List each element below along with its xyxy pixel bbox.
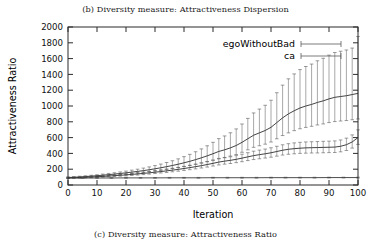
y-tick-label: 1000 — [41, 101, 63, 111]
x-tick-label: 20 — [121, 188, 132, 198]
y-axis-title: Attractiveness Ratio — [7, 58, 18, 155]
x-tick-label: 90 — [324, 188, 335, 198]
data-series-layer — [66, 36, 360, 178]
y-tick-label: 200 — [47, 164, 63, 174]
x-axis-tick-labels: 0102030405060708090100 — [65, 188, 366, 198]
legend-label-egoWithoutBad: egoWithoutBad — [223, 38, 295, 49]
legend-label-ca: ca — [284, 50, 295, 61]
figure-caption-bottom: (c) Diversity measure: Attractiveness Ra… — [0, 229, 371, 239]
series-ca — [66, 177, 360, 178]
x-tick-label: 40 — [179, 188, 190, 198]
y-tick-label: 1600 — [41, 54, 63, 64]
attractiveness-ratio-chart: 0200400600800100012001400160018002000 01… — [0, 0, 371, 242]
x-tick-label: 60 — [237, 188, 248, 198]
x-tick-label: 10 — [92, 188, 103, 198]
y-tick-label: 600 — [47, 133, 63, 143]
chart-legend: egoWithoutBadca — [223, 38, 341, 61]
x-tick-label: 30 — [150, 188, 161, 198]
x-tick-label: 0 — [65, 188, 70, 198]
y-tick-label: 1200 — [41, 85, 63, 95]
y-tick-label: 800 — [47, 117, 63, 127]
figure-container: (b) Diversity measure: Attractiveness Di… — [0, 0, 371, 242]
y-axis-tick-labels: 0200400600800100012001400160018002000 — [41, 22, 63, 190]
y-tick-label: 1400 — [41, 70, 63, 80]
legend-marker-egoWithoutBad — [301, 41, 341, 47]
series-egoWithoutBad — [66, 36, 360, 178]
y-tick-label: 1800 — [41, 38, 63, 48]
x-tick-label: 70 — [266, 188, 277, 198]
x-tick-label: 50 — [208, 188, 219, 198]
y-tick-label: 400 — [47, 149, 63, 159]
x-tick-label: 100 — [350, 188, 366, 198]
y-tick-label: 2000 — [41, 22, 63, 32]
y-tick-label: 0 — [58, 180, 63, 190]
x-tick-label: 80 — [295, 188, 306, 198]
x-axis-title: Iteration — [193, 209, 234, 220]
